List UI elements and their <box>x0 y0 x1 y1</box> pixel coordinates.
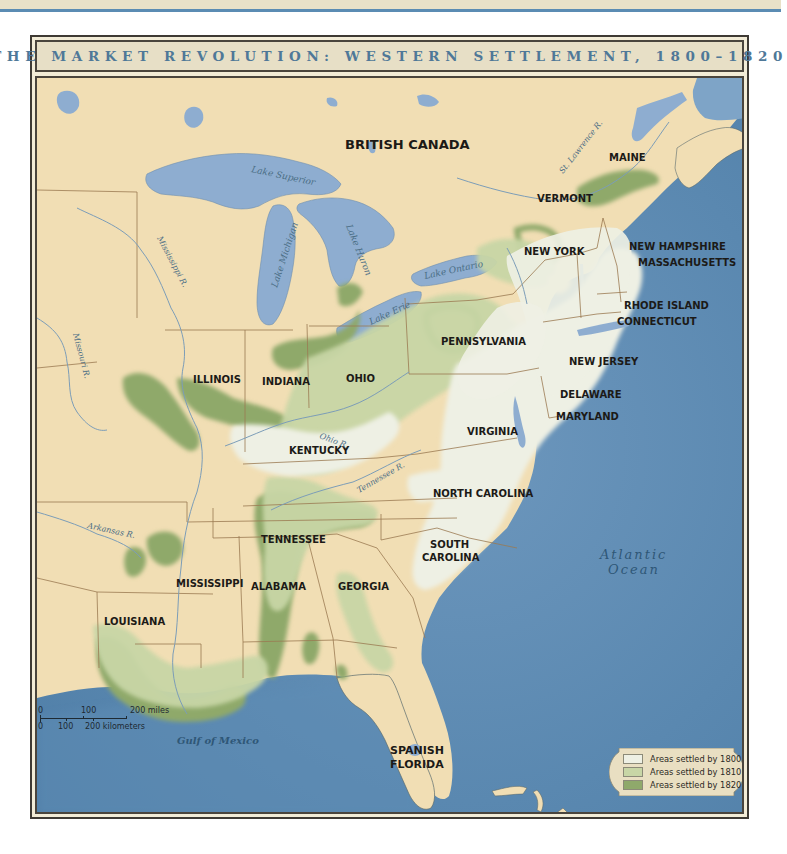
scale-km-200: 200 kilometers <box>85 722 145 731</box>
label-north-carolina: NORTH CAROLINA <box>433 488 534 499</box>
scale-bar: 0 100 200 miles 0 100 200 kilometers <box>38 706 178 746</box>
label-maine: MAINE <box>609 152 646 163</box>
label-ohio: OHIO <box>346 373 375 384</box>
label-spanish-florida-line2: FLORIDA <box>390 758 444 771</box>
label-pennsylvania: PENNSYLVANIA <box>441 336 526 347</box>
label-atlantic-line2: Ocean <box>608 562 660 577</box>
label-louisiana: LOUISIANA <box>104 616 165 627</box>
label-new-york: NEW YORK <box>524 246 586 257</box>
label-new-hampshire: NEW HAMPSHIRE <box>629 241 726 252</box>
scale-tick <box>126 716 127 719</box>
scale-tick <box>83 716 84 719</box>
label-british-canada: BRITISH CANADA <box>345 137 470 152</box>
scale-tick <box>93 718 94 721</box>
scale-tick <box>40 715 41 722</box>
label-massachusetts: MASSACHUSETTS <box>638 257 736 268</box>
map-title: THE MARKET REVOLUTION: WESTERN SETTLEMEN… <box>0 48 787 64</box>
scale-km-0: 0 <box>38 722 43 731</box>
label-south-carolina-line2: CAROLINA <box>422 552 480 563</box>
legend-swatch-1800 <box>623 754 643 764</box>
legend-label-1820: Areas settled by 1820 <box>650 780 741 790</box>
label-connecticut: CONNECTICUT <box>617 316 697 327</box>
label-new-jersey: NEW JERSEY <box>569 356 639 367</box>
label-atlantic-line1: Atlantic <box>599 547 667 562</box>
map-canvas: BRITISH CANADA MAINE VERMONT NEW HAMPSHI… <box>35 76 744 814</box>
label-spanish-florida-line1: SPANISH <box>390 744 444 757</box>
map-frame: THE MARKET REVOLUTION: WESTERN SETTLEMEN… <box>30 35 749 819</box>
label-delaware: DELAWARE <box>560 389 622 400</box>
scale-miles-0: 0 <box>38 706 43 715</box>
label-georgia: GEORGIA <box>338 581 389 592</box>
scale-miles-100: 100 <box>81 706 96 715</box>
legend: Areas settled by 1800 Areas settled by 1… <box>609 748 744 796</box>
label-indiana: INDIANA <box>262 376 310 387</box>
label-gulf-of-mexico: Gulf of Mexico <box>177 735 259 746</box>
label-virginia: VIRGINIA <box>467 426 518 437</box>
legend-label-1800: Areas settled by 1800 <box>650 754 741 764</box>
label-mississippi: MISSISSIPPI <box>176 578 243 589</box>
title-bar: THE MARKET REVOLUTION: WESTERN SETTLEMEN… <box>35 40 744 72</box>
legend-swatch-1820 <box>623 780 643 790</box>
label-rhode-island: RHODE ISLAND <box>624 300 709 311</box>
top-decorative-band <box>0 0 781 12</box>
scale-km-100: 100 <box>58 722 73 731</box>
legend-item-1800: Areas settled by 1800 <box>615 752 741 765</box>
scale-miles-200: 200 miles <box>130 706 169 715</box>
label-vermont: VERMONT <box>537 193 593 204</box>
label-maryland: MARYLAND <box>556 411 619 422</box>
label-illinois: ILLINOIS <box>193 374 241 385</box>
label-alabama: ALABAMA <box>251 581 306 592</box>
legend-swatch-1810 <box>623 767 643 777</box>
legend-item-1810: Areas settled by 1810 <box>615 765 741 778</box>
map-svg: BRITISH CANADA MAINE VERMONT NEW HAMPSHI… <box>37 78 744 814</box>
scale-tick <box>66 718 67 721</box>
legend-item-1820: Areas settled by 1820 <box>615 778 741 791</box>
label-tennessee: TENNESSEE <box>261 534 326 545</box>
label-south-carolina-line1: SOUTH <box>430 539 469 550</box>
legend-label-1810: Areas settled by 1810 <box>650 767 741 777</box>
